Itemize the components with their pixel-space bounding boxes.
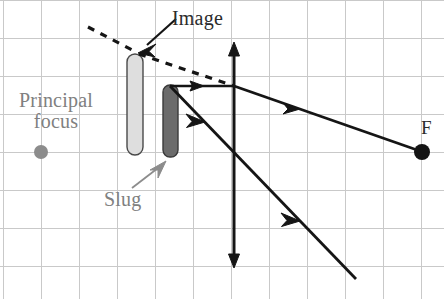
slug-pointer-arrow: [132, 161, 166, 188]
principal-focus-label-line1: Principal: [2, 90, 110, 111]
ray-arrowhead: [186, 114, 205, 128]
ray-diagram-figure: Principal focus Slug Image F: [0, 0, 444, 299]
principal-focus-label-line2: focus: [2, 111, 110, 132]
ray-through-centre: [170, 86, 356, 279]
virtual-ray-to-lens: [139, 54, 234, 86]
diagram-artwork: [0, 0, 444, 299]
slug-object-bar: [163, 85, 178, 157]
principal-focus-dot: [34, 145, 48, 159]
virtual-rays-dashed: [88, 27, 234, 86]
ray-arrowhead: [281, 213, 300, 227]
virtual-ray-upper-left: [88, 27, 136, 52]
image-pointer-arrow: [138, 19, 176, 57]
principal-focus-label: Principal focus: [2, 90, 110, 132]
image-object-bar: [127, 54, 143, 155]
focus-point-label: F: [421, 118, 432, 138]
refracted-ray-through-focus: [234, 86, 420, 151]
lens-axis-arrowhead-bottom: [229, 254, 240, 268]
focus-point-dot: [414, 144, 430, 160]
ray-arrowhead: [190, 81, 204, 91]
slug-label: Slug: [104, 189, 141, 210]
image-label: Image: [172, 8, 223, 29]
lens-axis-arrowhead-top: [229, 42, 240, 56]
